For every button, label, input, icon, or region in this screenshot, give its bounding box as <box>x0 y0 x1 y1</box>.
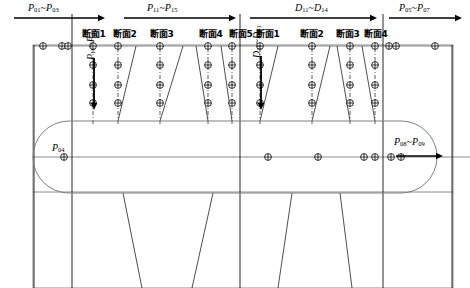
grid-point-c2-r0 <box>157 62 164 69</box>
splay-line-lower-3 <box>340 193 352 288</box>
grid-point-c1-r0 <box>115 62 122 69</box>
grid-point-c1-r1 <box>115 82 122 89</box>
grid-point-c0-r0 <box>90 62 97 69</box>
center-axis-marker-3 <box>361 154 368 161</box>
diagram-canvas: P01~P03P11~P15D11~D14P05~P07P04P08~P09P1… <box>0 0 470 288</box>
grid-point-c8-r1 <box>372 82 379 89</box>
top-axis-marker-4 <box>115 43 122 50</box>
top-axis-marker-2 <box>65 43 72 50</box>
splay-line-lower-2 <box>278 193 292 288</box>
center-axis-marker-5 <box>388 154 395 161</box>
splay-line-lower-0 <box>123 193 142 288</box>
grid-point-c6-r0 <box>309 62 316 69</box>
grid-point-c5-r0 <box>257 62 264 69</box>
center-axis-marker-1 <box>265 154 272 161</box>
top-axis-marker-0 <box>40 43 47 50</box>
center-axis-marker-0 <box>61 154 68 161</box>
top-direction-arrow-a3 <box>250 15 377 21</box>
top-axis-marker-3 <box>90 43 97 50</box>
grid-point-c3-r1 <box>205 82 212 89</box>
top-axis-marker-5 <box>157 43 164 50</box>
grid-point-c4-r2 <box>229 100 236 107</box>
splay-line-lower-1 <box>192 193 213 288</box>
top-direction-arrow-a2 <box>124 15 236 21</box>
grid-point-c6-r2 <box>309 100 316 107</box>
grid-point-c2-r1 <box>157 82 164 89</box>
grid-point-c8-r2 <box>372 100 379 107</box>
grid-point-c7-r1 <box>347 82 354 89</box>
top-axis-marker-14 <box>432 43 439 50</box>
grid-point-c4-r0 <box>229 62 236 69</box>
diagram-frame <box>33 45 453 288</box>
top-axis-marker-6 <box>205 43 212 50</box>
grid-point-c2-r2 <box>157 100 164 107</box>
grid-point-c6-r1 <box>309 82 316 89</box>
center-axis-marker-2 <box>315 154 322 161</box>
top-axis-marker-11 <box>372 43 379 50</box>
center-axis-marker-4 <box>372 154 379 161</box>
grid-point-c0-r1 <box>90 82 97 89</box>
center-axis-marker-6 <box>398 154 405 161</box>
top-axis-marker-12 <box>386 43 393 50</box>
top-axis-marker-9 <box>309 43 316 50</box>
top-direction-arrow-a4 <box>389 15 462 21</box>
top-axis-marker-7 <box>229 43 236 50</box>
grid-point-c5-r1 <box>257 82 264 89</box>
top-axis-marker-13 <box>393 43 400 50</box>
diagram-vector-layer <box>0 0 470 288</box>
top-axis-marker-8 <box>257 43 264 50</box>
grid-point-c4-r1 <box>229 82 236 89</box>
grid-point-c8-r0 <box>372 62 379 69</box>
grid-point-c7-r2 <box>347 100 354 107</box>
top-direction-arrow-a1 <box>14 15 105 21</box>
grid-point-c1-r2 <box>115 100 122 107</box>
top-axis-marker-10 <box>347 43 354 50</box>
grid-point-c3-r0 <box>205 62 212 69</box>
grid-point-c7-r0 <box>347 62 354 69</box>
grid-point-c3-r2 <box>205 100 212 107</box>
